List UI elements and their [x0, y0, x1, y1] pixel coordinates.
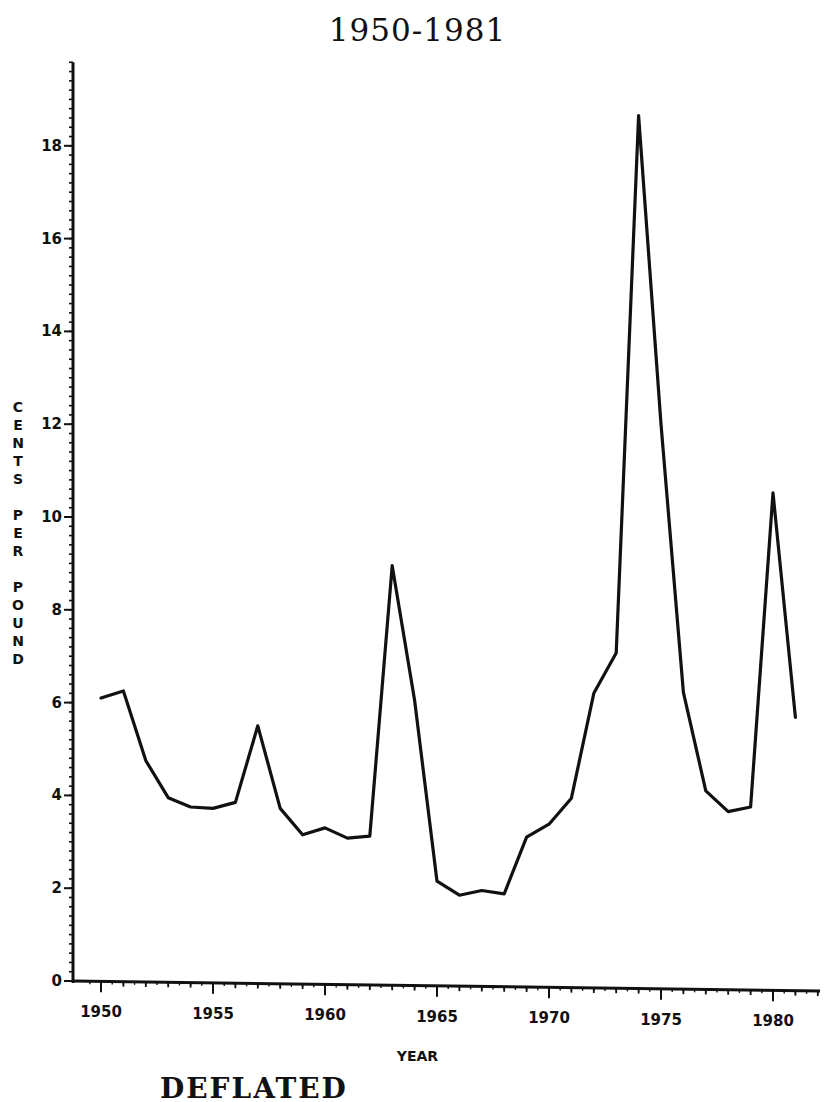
x-tick-label: 1965 — [416, 1008, 458, 1026]
x-tick-label: 1975 — [640, 1011, 682, 1029]
y-axis-label: C E N T S P E R P O U N D — [8, 398, 28, 668]
axes — [73, 62, 820, 991]
y-tick-label: 10 — [41, 508, 62, 526]
y-tick-label: 6 — [52, 694, 62, 712]
x-axis-label: YEAR — [0, 1048, 835, 1064]
data-line — [101, 116, 795, 896]
y-tick-label: 2 — [52, 879, 62, 897]
y-tick-label: 16 — [41, 230, 62, 248]
x-tick-label: 1980 — [752, 1012, 794, 1030]
y-tick-label: 14 — [41, 322, 62, 340]
x-tick-label: 1960 — [304, 1006, 346, 1024]
y-tick-label: 18 — [41, 137, 62, 155]
y-tick-label: 4 — [52, 786, 62, 804]
x-tick-label: 1970 — [528, 1009, 570, 1027]
x-tick-label: 1955 — [192, 1005, 234, 1023]
y-tick-label: 8 — [52, 601, 62, 619]
y-axis-ticks: 024681012141618 — [41, 62, 73, 990]
y-tick-label: 12 — [41, 415, 62, 433]
chart-caption: DEFLATED — [160, 1072, 348, 1102]
x-tick-label: 1950 — [80, 1003, 122, 1021]
y-tick-label: 0 — [52, 972, 62, 990]
